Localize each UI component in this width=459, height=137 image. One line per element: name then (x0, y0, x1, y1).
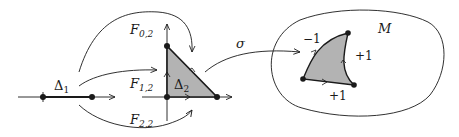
diagram-canvas: Δ1 F0,2 F1,2 F2,2 Δ2 σ M −1 +1 +1 (0, 0, 459, 137)
image-vertex-right (351, 82, 357, 88)
f02-label: F0,2 (129, 22, 154, 39)
edge-top-coefficient: −1 (303, 32, 321, 46)
delta2-vertex-right (214, 94, 220, 100)
delta2-simplex: Δ2 (142, 24, 232, 121)
sigma-map-arrow (205, 51, 300, 72)
sigma-label: σ (236, 36, 246, 51)
diagram: Δ1 F0,2 F1,2 F2,2 Δ2 σ M −1 +1 +1 (0, 0, 459, 137)
delta1-vertex-1 (89, 94, 95, 100)
singular-simplex: −1 +1 +1 (300, 30, 373, 103)
delta1-vertex-0 (40, 94, 46, 100)
manifold-boundary (271, 10, 444, 116)
edge-bottom-coefficient: +1 (329, 89, 347, 103)
edge-right-coefficient: +1 (355, 49, 373, 63)
f22-label: F2,2 (129, 112, 154, 129)
image-vertex-left (300, 76, 306, 82)
image-vertex-top (345, 30, 351, 36)
delta2-vertex-origin (164, 94, 170, 100)
manifold-label: M (377, 21, 392, 36)
delta1-label: Δ1 (54, 78, 69, 95)
delta1-simplex: Δ1 (18, 78, 115, 102)
delta2-vertex-top (164, 43, 170, 49)
f12-label: F1,2 (129, 76, 154, 93)
